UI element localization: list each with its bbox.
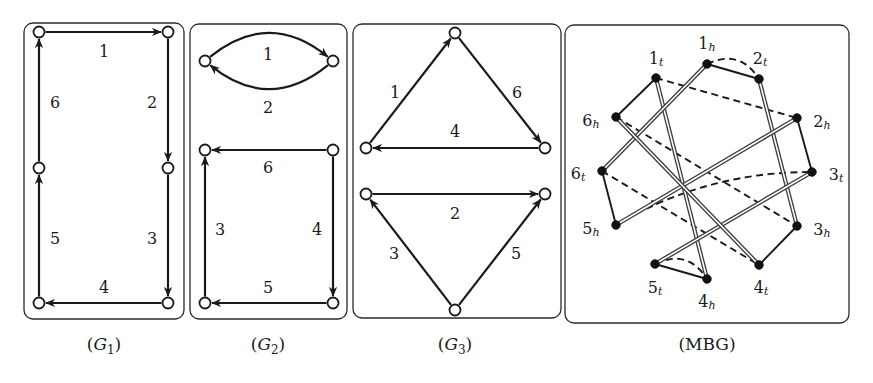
node-4h: 4h (698, 275, 715, 312)
node-2h: 2h (793, 112, 831, 132)
edge-6: 6 (459, 38, 541, 142)
edge-5: 5 (39, 175, 60, 297)
vertex-circle (200, 145, 211, 156)
solid-edge (616, 78, 656, 117)
panel-g1: 123456(G1) (24, 23, 184, 357)
vertex-circle (361, 189, 372, 200)
vertex-circle (328, 56, 339, 67)
vertex-dot (612, 113, 620, 121)
directed-edge (370, 39, 451, 143)
vertex-dot (598, 167, 606, 175)
edge-2: 2 (373, 194, 539, 223)
edge-label: 3 (389, 244, 399, 263)
edge-5: 5 (459, 200, 541, 305)
graph-panels: 123456(G1)126453(G2)164235(G3) (24, 23, 561, 357)
vertex-circle (540, 143, 551, 154)
vertex-circle (361, 143, 372, 154)
vertex-circle (200, 298, 211, 309)
vertex-dot (755, 75, 763, 83)
node-label: 3h (813, 220, 830, 240)
vertex-circle (34, 163, 45, 174)
directed-edge (370, 200, 451, 305)
directed-edge (459, 200, 541, 305)
edge-4: 4 (373, 122, 539, 149)
vertex-circle (328, 298, 339, 309)
solid-edge (759, 226, 797, 265)
edge-label: 4 (312, 220, 322, 239)
node-label: 2t (753, 49, 768, 69)
node-label: 1t (649, 49, 664, 69)
edge-label: 5 (50, 229, 60, 248)
vertex-dot (703, 60, 711, 68)
edge-label: 6 (50, 93, 60, 112)
edge-3: 3 (370, 200, 451, 305)
vertex-circle (200, 56, 211, 67)
edge-3: 3 (147, 175, 168, 297)
edge-1: 1 (210, 33, 328, 64)
vertex-circle (328, 145, 339, 156)
edge-1: 1 (46, 32, 162, 61)
figure-breakpoint-graphs: 123456(G1)126453(G2)164235(G3) 1t1h2t2h3… (0, 0, 873, 383)
node-6t: 6t (571, 164, 607, 184)
panel-caption: (MBG) (678, 334, 735, 354)
directed-arc (210, 65, 328, 89)
edge-6: 6 (212, 150, 327, 177)
edge-label: 6 (263, 158, 273, 177)
node-label: 3t (829, 165, 844, 185)
solid-edge (797, 118, 812, 172)
vertex-dot (651, 260, 659, 268)
panel-frame (24, 23, 184, 319)
panel-frame (353, 24, 561, 318)
vertex-dot (703, 275, 711, 283)
vertex-circle (540, 189, 551, 200)
vertex-dot (612, 221, 620, 229)
dashed-edge (656, 78, 797, 118)
vertex-dot (652, 74, 660, 82)
edge-2: 2 (147, 39, 168, 162)
edge-label: 3 (215, 220, 225, 239)
node-label: 2h (813, 112, 830, 132)
edge-6: 6 (39, 39, 60, 162)
edge-1: 1 (370, 39, 451, 143)
vertex-dot (793, 114, 801, 122)
node-label: 6t (571, 164, 586, 184)
edge-label: 3 (147, 229, 157, 248)
edge-label: 4 (99, 278, 109, 297)
panel-caption: (G3) (438, 334, 473, 357)
double-edges (602, 64, 812, 279)
vertex-circle (34, 298, 45, 309)
edge-label: 1 (263, 45, 273, 64)
edge-label: 5 (263, 278, 273, 297)
edge-3: 3 (205, 157, 225, 297)
directed-edge (459, 38, 541, 142)
vertex-circle (163, 163, 174, 174)
edge-label: 1 (390, 83, 400, 102)
node-label: 4t (754, 278, 769, 298)
solid-edge (707, 64, 759, 79)
edge-4: 4 (312, 157, 333, 297)
vertex-circle (163, 27, 174, 38)
panel-caption: (G1) (87, 334, 122, 357)
edge-label: 2 (450, 204, 460, 223)
node-1t: 1t (649, 49, 664, 83)
vertex-dot (793, 222, 801, 230)
edge-2: 2 (210, 65, 328, 116)
node-label: 1h (698, 34, 715, 54)
node-3h: 3h (793, 220, 831, 240)
master-breakpoint-graph-panel: 1t1h2t2h3t3h4t4h5t5h6t6h(MBG) (565, 25, 849, 354)
edge-label: 1 (99, 42, 109, 61)
vertex-circle (163, 298, 174, 309)
vertex-dot (808, 168, 816, 176)
edge-label: 2 (263, 98, 273, 117)
edge-label: 5 (511, 244, 521, 263)
edge-4: 4 (46, 278, 162, 304)
node-label: 5h (582, 219, 599, 239)
node-label: 5t (648, 278, 663, 298)
edge-label: 4 (450, 122, 460, 141)
solid-edge (655, 264, 707, 279)
node-1h: 1h (698, 34, 715, 69)
vertex-dot (755, 261, 763, 269)
panel-caption: (G2) (251, 334, 286, 357)
diagram-canvas: 123456(G1)126453(G2)164235(G3) 1t1h2t2h3… (0, 0, 873, 383)
vertex-circle (34, 27, 45, 38)
